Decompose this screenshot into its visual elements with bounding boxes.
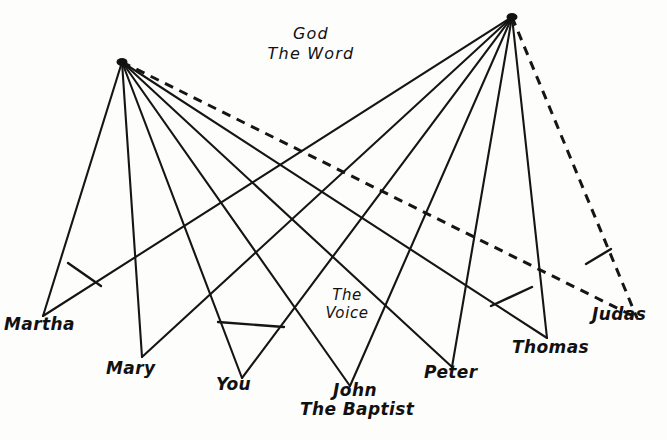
label-the-voice: The Voice: [316, 286, 378, 323]
base-thomas: [491, 287, 532, 306]
title-line-god: God: [246, 24, 376, 44]
node-label-you: You: [216, 376, 251, 393]
john-line-2: The Baptist: [300, 400, 410, 419]
ray-right-to-thomas: [512, 17, 547, 338]
node-label-martha: Martha: [4, 316, 75, 333]
title-god: God The Word: [246, 24, 376, 65]
diagram-canvas: God The Word The Voice Martha Mary You J…: [0, 0, 667, 440]
base-you: [218, 322, 284, 327]
ray-left-to-martha: [43, 62, 122, 316]
apex-left-dot: [117, 58, 128, 66]
base-judas: [586, 249, 611, 264]
node-label-judas: Judas: [592, 306, 646, 323]
voice-line-1: The: [316, 286, 378, 304]
ray-left-to-john: [122, 62, 350, 386]
apex-right-dot: [507, 13, 518, 21]
ray-diagram: [0, 0, 667, 440]
ray-right-to-peter: [452, 17, 512, 367]
ray-left-to-peter: [122, 62, 452, 367]
ray-right-to-judas-dashed: [512, 17, 637, 318]
john-line-1: John: [300, 381, 410, 400]
base-martha: [68, 263, 101, 286]
title-line-the-word: The Word: [246, 44, 376, 64]
node-label-john-the-baptist: John The Baptist: [300, 381, 410, 418]
node-label-mary: Mary: [106, 360, 155, 377]
voice-line-2: Voice: [316, 304, 378, 322]
node-label-thomas: Thomas: [512, 339, 589, 356]
node-label-peter: Peter: [424, 364, 478, 381]
